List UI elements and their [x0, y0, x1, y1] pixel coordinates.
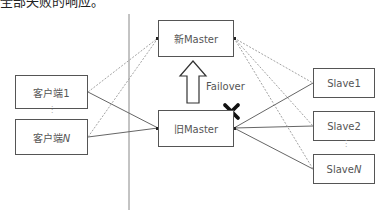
new-master-label: 新Master [174, 31, 218, 46]
dotted-connection-client1-new [88, 38, 158, 92]
solid-connection-old-slave2 [234, 126, 313, 128]
slave-1-label: Slave1 [327, 78, 361, 89]
slave-n-label: SlaveN [327, 164, 362, 175]
slave-n-box: SlaveN [313, 154, 375, 184]
dotted-connection-new-slave2 [234, 38, 313, 126]
solid-connection-old-slaveN [234, 128, 313, 169]
failover-arrow-icon [180, 61, 206, 103]
dotted-connection-new-slave1 [234, 38, 313, 83]
client-n-label: 客户端N [33, 130, 70, 145]
slave-2-label: Slave2 [327, 121, 361, 132]
solid-connection-clientN-old [88, 128, 158, 137]
slave-ellipsis: ⋮ [342, 139, 350, 148]
dotted-connections [88, 38, 313, 169]
slave-2-box: Slave2 [313, 111, 375, 141]
client-ellipsis: ⋮ [48, 105, 56, 114]
dotted-connection-new-slaveN [234, 38, 313, 169]
old-master-label: 旧Master [174, 121, 218, 136]
client-1-box: 客户端1 [15, 75, 88, 109]
failover-label: Failover [206, 81, 245, 92]
solid-connection-old-slave1 [234, 83, 313, 128]
client-1-label: 客户端1 [33, 85, 69, 100]
old-master-box: 旧Master [158, 110, 234, 147]
slave-1-box: Slave1 [313, 68, 375, 98]
new-master-box: 新Master [158, 20, 234, 57]
client-n-box: 客户端N [15, 119, 88, 155]
